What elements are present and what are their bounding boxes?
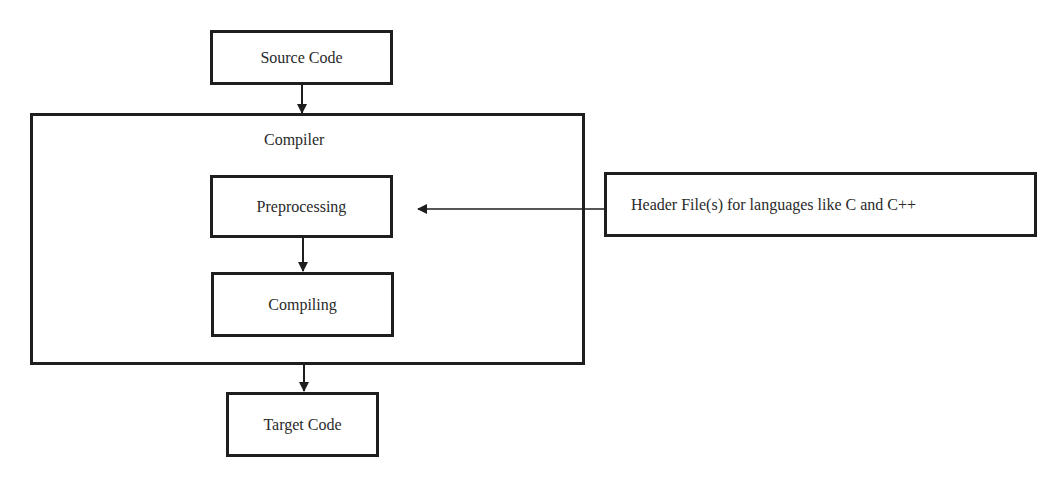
source-code-label: Source Code	[260, 49, 342, 67]
compiler-label: Compiler	[264, 131, 324, 149]
preprocessing-label: Preprocessing	[257, 198, 347, 216]
preprocessing-box: Preprocessing	[210, 175, 393, 238]
source-code-box: Source Code	[210, 30, 393, 85]
header-files-label: Header File(s) for languages like C and …	[631, 196, 916, 214]
compiling-label: Compiling	[268, 296, 336, 314]
compiling-box: Compiling	[211, 272, 394, 337]
target-code-label: Target Code	[263, 416, 341, 434]
target-code-box: Target Code	[226, 392, 379, 457]
header-files-box: Header File(s) for languages like C and …	[604, 172, 1037, 237]
